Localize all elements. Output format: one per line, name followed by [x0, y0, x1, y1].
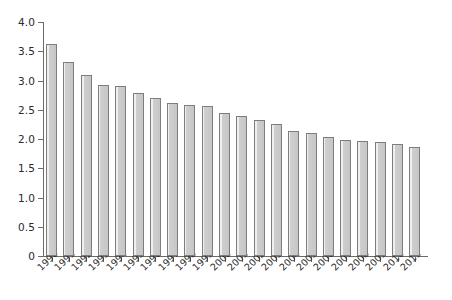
- bar: [81, 75, 92, 256]
- bar: [357, 141, 368, 256]
- bar: [375, 142, 386, 256]
- y-tick-mark: [38, 51, 43, 52]
- bar: [98, 85, 109, 256]
- bar: [409, 147, 420, 256]
- bar: [254, 120, 265, 256]
- bar: [236, 116, 247, 256]
- bar: [271, 124, 282, 256]
- y-tick-mark: [38, 110, 43, 111]
- bar: [167, 103, 178, 256]
- y-tick-mark: [38, 139, 43, 140]
- y-tick-label: 3.0: [18, 76, 35, 86]
- y-tick-label: 2.0: [18, 134, 35, 144]
- y-tick-label: 2.5: [18, 105, 35, 115]
- y-tick-label: 1.0: [18, 193, 35, 203]
- bar: [184, 105, 195, 256]
- y-tick-mark: [38, 81, 43, 82]
- y-tick-label: 0.5: [18, 222, 35, 232]
- bar: [340, 140, 351, 256]
- bar: [219, 113, 230, 256]
- y-axis-line: [43, 22, 44, 257]
- y-tick-mark: [38, 22, 43, 23]
- y-tick-mark: [38, 168, 43, 169]
- bar: [63, 62, 74, 256]
- bar: [306, 133, 317, 256]
- bar: [150, 98, 161, 256]
- bar: [323, 137, 334, 256]
- bar: [46, 44, 57, 256]
- y-tick-label: 4.0: [18, 17, 35, 27]
- bar: [115, 86, 126, 256]
- y-tick-mark: [38, 227, 43, 228]
- y-tick-label: 1.5: [18, 163, 35, 173]
- y-tick-label: 3.5: [18, 46, 35, 56]
- bar: [288, 131, 299, 256]
- y-tick-label: 0: [28, 251, 35, 261]
- bar-chart: 00.51.01.52.02.53.03.54.0 19901991199219…: [0, 0, 452, 300]
- bar: [392, 144, 403, 256]
- bar: [202, 106, 213, 256]
- bar: [133, 93, 144, 256]
- y-tick-mark: [38, 198, 43, 199]
